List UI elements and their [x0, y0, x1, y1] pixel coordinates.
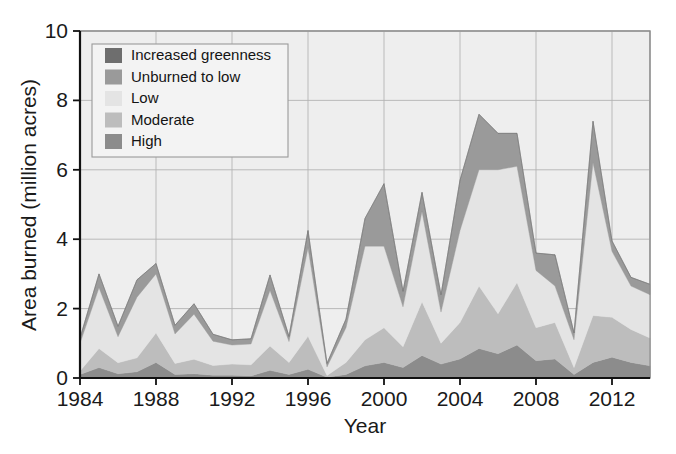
x-tick-label: 1984 [57, 387, 104, 410]
x-tick-label: 2012 [589, 387, 636, 410]
y-tick-label: 10 [45, 19, 68, 42]
x-tick-label: 2008 [513, 387, 560, 410]
legend-label: Low [131, 89, 159, 106]
legend: Increased greennessUnburned to lowLowMod… [92, 44, 288, 157]
x-tick-label: 1996 [285, 387, 332, 410]
legend-label: High [131, 132, 162, 149]
x-tick-label: 1988 [133, 387, 180, 410]
y-tick-label: 6 [56, 158, 68, 181]
legend-label: Unburned to low [131, 68, 240, 85]
y-tick-label: 8 [56, 88, 68, 111]
figure-container: 0246810 19841988199219962000200420082012… [0, 0, 676, 454]
legend-label: Increased greenness [131, 46, 271, 63]
y-tick-label: 4 [56, 227, 68, 250]
x-tick-label: 1992 [209, 387, 256, 410]
legend-swatch [105, 48, 122, 63]
legend-swatch [105, 70, 122, 85]
y-tick-label: 0 [56, 366, 68, 389]
legend-swatch [105, 113, 122, 128]
y-axis-title: Area burned (million acres) [17, 79, 40, 331]
burn-severity-stacked-area-chart: 0246810 19841988199219962000200420082012… [0, 0, 676, 454]
x-tick-label: 2004 [437, 387, 484, 410]
y-tick-label: 2 [56, 297, 68, 320]
legend-label: Moderate [131, 111, 194, 128]
x-axis-title: Year [344, 414, 386, 437]
legend-swatch [105, 91, 122, 106]
x-tick-label: 2000 [361, 387, 408, 410]
legend-swatch [105, 134, 122, 149]
